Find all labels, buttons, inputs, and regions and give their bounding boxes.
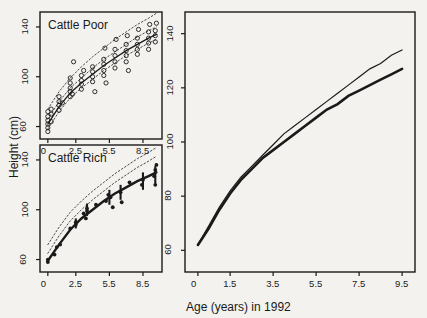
data-point [68, 81, 72, 85]
y-tick-label: 100 [164, 134, 175, 150]
y-tick-label: 120 [164, 79, 175, 95]
data-point [113, 53, 117, 57]
data-point [104, 81, 108, 85]
fit-curve [48, 172, 157, 260]
data-point [109, 195, 113, 199]
data-point [91, 70, 95, 74]
data-point [124, 42, 128, 46]
data-point [135, 52, 139, 56]
data-point [53, 253, 57, 257]
fit-curve [48, 34, 157, 124]
data-point [114, 37, 118, 41]
data-point [94, 203, 98, 207]
x-tick-label: 9.5 [395, 278, 408, 289]
data-point [126, 68, 130, 72]
y-tick-label: 100 [19, 201, 30, 217]
data-point [153, 29, 157, 33]
x-tick-label: 0 [41, 145, 46, 156]
x-tick-label: 5.5 [309, 278, 322, 289]
data-point [155, 163, 159, 167]
x-tick-label: 0 [191, 278, 196, 289]
data-point [49, 112, 53, 116]
data-point [102, 57, 106, 61]
series-line [198, 69, 402, 245]
data-point [93, 90, 97, 94]
panel-frame [185, 12, 415, 272]
panel-title: Cattle Poor [48, 18, 108, 32]
x-tick-label: 2.5 [69, 278, 82, 289]
reference-curve [48, 27, 157, 119]
data-point [113, 47, 117, 51]
x-tick-label: 8.5 [136, 145, 149, 156]
data-point [153, 183, 157, 187]
data-point [136, 27, 140, 31]
data-point [57, 95, 61, 99]
data-point [91, 75, 95, 79]
data-point [125, 34, 129, 38]
data-point [91, 80, 95, 84]
x-tick-label: 5.5 [102, 278, 115, 289]
y-tick-label: 140 [19, 152, 30, 168]
panel-title: Cattle Rich [48, 151, 107, 165]
data-point [154, 21, 158, 25]
reference-curve [48, 39, 157, 129]
data-point [141, 178, 145, 182]
data-point [113, 66, 117, 70]
x-tick-label: 3.5 [266, 278, 279, 289]
x-tick-label: 1.5 [223, 278, 236, 289]
panel-right [181, 12, 415, 276]
y-tick-label: 60 [162, 245, 173, 256]
growth-chart-figure: Height (cm) Age (years) in 1992 02.55.58… [0, 0, 427, 318]
data-point [82, 68, 86, 72]
y-tick-label: 60 [17, 121, 28, 132]
data-point [119, 190, 123, 194]
x-tick-label: 0 [41, 278, 46, 289]
y-tick-label: 140 [164, 25, 175, 41]
y-tick-label: 80 [162, 190, 173, 201]
y-tick-label: 60 [17, 254, 28, 265]
data-point [85, 207, 89, 211]
data-point [74, 220, 78, 224]
data-point [104, 199, 108, 203]
data-point [84, 217, 88, 221]
data-point [120, 200, 124, 204]
series-line [198, 50, 402, 245]
data-point [140, 183, 144, 187]
data-point [79, 73, 83, 77]
data-point [49, 107, 53, 111]
data-point [71, 60, 75, 64]
data-point [111, 205, 115, 209]
data-point [146, 47, 150, 51]
y-tick-label: 100 [19, 68, 30, 84]
data-point [82, 212, 86, 216]
y-tick-label: 140 [19, 19, 30, 35]
data-point [55, 245, 59, 249]
data-point [68, 227, 72, 231]
data-point [128, 180, 132, 184]
data-point [58, 243, 62, 247]
data-point [148, 22, 152, 26]
data-point [102, 73, 106, 77]
x-tick-label: 7.5 [352, 278, 365, 289]
data-point [46, 258, 50, 262]
data-point [124, 53, 128, 57]
data-point [152, 174, 156, 178]
data-point [153, 168, 157, 172]
data-point [124, 60, 128, 64]
x-tick-label: 8.5 [136, 278, 149, 289]
